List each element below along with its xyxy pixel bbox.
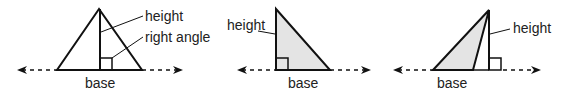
right-angle-label: right angle	[145, 29, 211, 45]
height-label: height	[513, 20, 551, 36]
base-label: base	[85, 75, 116, 91]
height-leader	[490, 29, 510, 34]
figure-acute-triangle: height right angle base	[17, 8, 211, 91]
triangle	[276, 9, 330, 70]
right-angle-marker	[100, 58, 112, 70]
figure-right-triangle: height base	[227, 9, 371, 91]
height-leader	[101, 16, 143, 32]
right-arrowhead-icon	[531, 66, 541, 74]
triangle-height-diagram: height right angle base height base heig…	[0, 0, 565, 98]
right-angle-marker	[489, 58, 501, 70]
base-label: base	[288, 75, 319, 91]
right-angle-leader	[112, 37, 143, 58]
height-label: height	[145, 8, 183, 24]
figure-obtuse-triangle: height base	[393, 10, 551, 91]
base-label: base	[437, 75, 468, 91]
height-label: height	[227, 17, 265, 33]
triangle	[433, 10, 489, 70]
